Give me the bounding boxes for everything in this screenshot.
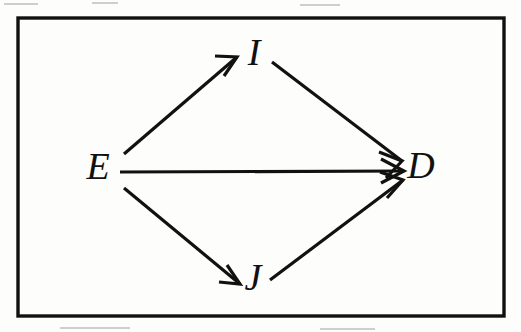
- edge-e-to-j: [124, 188, 240, 284]
- edge-line-j-d: [270, 180, 403, 280]
- edge-group: [120, 56, 404, 284]
- node-label-i: I: [247, 31, 263, 73]
- dag-diagram: E I J D: [0, 0, 521, 332]
- node-label-d: D: [406, 144, 434, 186]
- node-group: E I J D: [85, 31, 434, 298]
- node-label-j: J: [245, 256, 264, 298]
- edge-e-to-i: [124, 56, 237, 154]
- edge-line-e-i: [124, 57, 237, 154]
- figure-canvas: E I J D: [0, 0, 521, 332]
- edge-j-to-d: [270, 172, 403, 280]
- node-label-e: E: [85, 145, 109, 187]
- edge-line-i-d: [272, 62, 402, 161]
- edge-line-e-d: [120, 171, 404, 172]
- scan-noise: [4, 2, 375, 330]
- edge-e-to-d: [120, 159, 404, 183]
- edge-line-e-j: [124, 188, 240, 284]
